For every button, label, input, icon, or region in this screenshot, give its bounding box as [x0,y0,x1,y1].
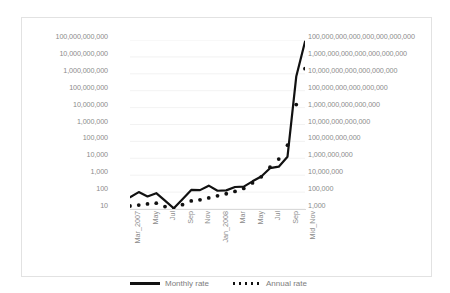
data-point [163,205,167,209]
left-axis-tick: 100,000 [83,133,108,142]
data-point [303,67,305,71]
series-line [130,42,305,209]
x-axis-tick: Jan_2008 [221,211,230,243]
chart-legend: Monthly rate Annual rate [130,276,360,290]
x-axis-tick: Mar_2007 [133,211,142,243]
data-point [242,187,246,191]
legend-item-monthly-rate: Monthly rate [130,279,209,288]
right-axis-tick: 100,000 [308,184,333,193]
x-axis-tick-labels: Mar_2007MayJulSepNovJan_2008MarMayJulSep… [130,211,306,271]
data-point [233,190,237,194]
x-axis-tick: Jul [168,211,177,220]
x-axis-tick: May [151,211,160,225]
left-axis-tick: 1,000,000,000 [63,65,108,74]
right-axis-tick: 1,000,000,000,000,000 [308,99,380,108]
right-axis-tick: 100,000,000,000,000,000,000,000 [308,32,415,41]
legend-label-monthly-rate: Monthly rate [165,279,209,288]
data-point [146,202,150,206]
left-axis-tick: 100 [96,184,108,193]
data-point [251,181,255,185]
data-point [154,201,158,205]
left-axis-tick: 10,000 [87,150,108,159]
chart-frame: 100,000,000,00010,000,000,0001,000,000,0… [21,17,432,277]
right-axis-tick: 100,000,000,000,000,000 [308,82,388,91]
data-point [277,157,281,161]
left-axis-tick: 100,000,000,000 [56,32,108,41]
x-axis-tick: May [256,211,265,225]
solid-line-icon [130,282,160,285]
right-axis-tick: 10,000,000 [308,167,343,176]
data-point [224,192,228,196]
data-point [207,196,211,200]
left-axis-tick: 1,000 [91,167,109,176]
data-point [216,194,220,198]
data-point [268,165,272,169]
right-axis-tick: 10,000,000,000,000,000,000 [308,65,397,74]
plot-area [130,40,305,209]
data-point [137,203,141,207]
data-point [130,204,132,208]
gridlines [130,40,305,209]
data-point [259,175,263,179]
x-axis-tick: Mid_Nov [308,211,317,239]
data-point [294,103,298,107]
data-point [181,203,185,207]
x-axis-tick: Nov [203,211,212,224]
data-point [286,143,290,147]
x-axis-tick: Jul [273,211,282,220]
left-axis-tick: 100,000,000 [69,82,108,91]
left-axis-tick: 10,000,000 [73,99,108,108]
x-axis-tick: Sep [186,211,195,224]
right-axis-tick: 1,000 [308,201,326,210]
right-axis-tick: 100,000,000,000 [308,133,360,142]
dotted-line-icon [231,282,261,285]
x-axis-tick: Mar [238,211,247,223]
x-axis-tick: Sep [291,211,300,224]
right-axis-tick: 1,000,000,000 [308,150,353,159]
legend-label-annual-rate: Annual rate [266,279,307,288]
left-axis-tick: 1,000,000 [77,116,108,125]
left-axis-tick: 10,000,000,000 [59,48,108,57]
left-axis-tick: 10 [100,201,108,210]
data-point [198,198,202,202]
series-canvas [130,40,305,209]
right-axis-tick: 10,000,000,000,000 [308,116,370,125]
legend-item-annual-rate: Annual rate [231,279,307,288]
data-series [130,42,305,209]
right-axis-tick: 1,000,000,000,000,000,000,000 [308,48,407,57]
data-point [189,199,193,203]
